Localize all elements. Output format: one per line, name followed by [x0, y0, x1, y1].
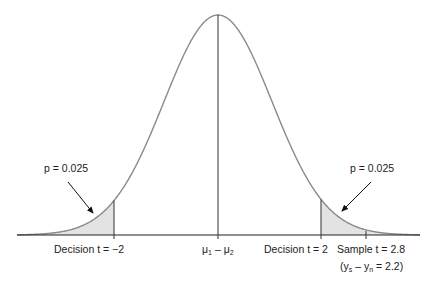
minus-mu: – μ: [212, 243, 230, 255]
diff-open: (y: [340, 260, 349, 272]
diff-close: = 2.2): [373, 260, 403, 272]
left-p-arrow-icon: [68, 182, 93, 213]
sample-t-label: Sample t = 2.8: [337, 243, 405, 255]
right-decision-label: Decision t = 2: [264, 243, 328, 255]
right-p-arrow-icon: [342, 182, 371, 211]
right-tail-shaded-region: [321, 199, 420, 235]
left-p-value-label: p = 0.025: [44, 162, 88, 174]
left-decision-label: Decision t = −2: [54, 243, 124, 255]
right-p-value-label: p = 0.025: [350, 162, 394, 174]
diff-mid: – y: [352, 260, 369, 272]
sample-difference-label: (ys – yn = 2.2): [340, 260, 403, 276]
subscript-2: 2: [230, 249, 234, 256]
left-tail-shaded-region: [17, 201, 114, 235]
mean-difference-label: μ1 – μ2: [202, 243, 234, 259]
